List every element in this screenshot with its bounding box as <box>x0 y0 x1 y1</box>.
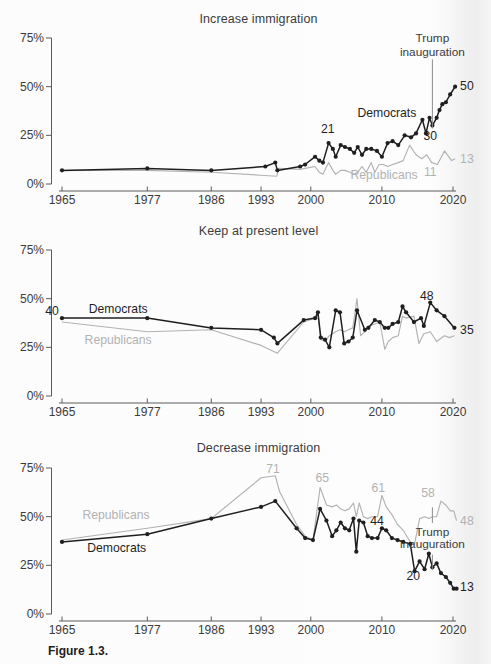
value-label: 13 <box>460 580 474 594</box>
data-point-marker <box>343 145 347 149</box>
y-tick-label: 0% <box>27 389 45 403</box>
data-point-marker <box>385 141 389 145</box>
data-point-marker <box>60 168 64 172</box>
figure-page: Increase immigration 0%25%50%75%19651977… <box>0 0 491 664</box>
data-point-marker <box>259 505 263 509</box>
x-tick-label: 2000 <box>297 623 324 637</box>
value-label: 48 <box>420 289 434 303</box>
data-point-marker <box>209 326 213 330</box>
data-point-marker <box>60 540 64 544</box>
data-point-marker <box>452 326 456 330</box>
data-point-marker <box>347 528 351 532</box>
data-point-marker <box>317 159 321 163</box>
data-point-marker <box>380 155 384 159</box>
x-tick-label: 1986 <box>198 405 225 419</box>
data-point-marker <box>422 567 426 571</box>
y-tick-label: 50% <box>20 80 44 94</box>
data-point-marker <box>354 550 358 554</box>
data-point-marker <box>437 108 441 112</box>
data-point-marker <box>327 345 331 349</box>
data-point-marker <box>145 316 149 320</box>
data-point-marker <box>448 581 452 585</box>
value-label: 58 <box>421 486 435 500</box>
x-tick-label: 1977 <box>134 193 161 207</box>
data-point-marker <box>444 100 448 104</box>
value-label: 13 <box>460 152 474 166</box>
data-point-marker <box>396 320 400 324</box>
data-point-marker <box>145 532 149 536</box>
y-axis: 0%25%50%75% <box>20 243 52 403</box>
data-point-marker <box>321 160 325 164</box>
x-tick-label: 1993 <box>248 405 275 419</box>
x-tick-label: 1986 <box>198 623 225 637</box>
data-point-marker <box>272 335 276 339</box>
value-label: 35 <box>460 323 474 337</box>
chart-title-keep: Keep at present level <box>26 224 491 238</box>
x-tick-label: 2020 <box>440 193 467 207</box>
chart-canvas-increase: 0%25%50%75%1965197719861993200020102020T… <box>0 26 491 216</box>
data-point-marker <box>454 587 458 591</box>
data-point-marker <box>439 571 443 575</box>
y-tick-label: 50% <box>20 510 44 524</box>
value-label: 65 <box>315 471 329 485</box>
value-label: 71 <box>266 462 280 476</box>
data-point-marker <box>363 328 367 332</box>
data-point-marker <box>319 335 323 339</box>
data-point-marker <box>263 164 267 168</box>
data-point-marker <box>339 520 343 524</box>
x-tick-label: 2000 <box>297 405 324 419</box>
y-tick-label: 75% <box>20 243 44 257</box>
data-point-marker <box>334 528 338 532</box>
data-point-marker <box>435 116 439 120</box>
data-point-marker <box>352 151 356 155</box>
x-tick-label: 1965 <box>49 405 76 419</box>
data-point-marker <box>311 538 315 542</box>
data-point-marker <box>386 326 390 330</box>
data-point-marker <box>351 517 355 521</box>
data-point-marker <box>60 316 64 320</box>
data-point-marker <box>334 155 338 159</box>
y-tick-label: 50% <box>20 292 44 306</box>
chart-title-decrease: Decrease immigration <box>26 441 491 455</box>
data-point-marker <box>442 314 446 318</box>
data-point-marker <box>357 518 361 522</box>
data-point-marker <box>273 499 277 503</box>
data-point-marker <box>435 308 439 312</box>
x-tick-label: 2020 <box>440 623 467 637</box>
data-point-marker <box>427 116 431 120</box>
value-label: 11 <box>424 165 437 179</box>
data-point-marker <box>453 85 457 89</box>
value-label: 21 <box>321 122 335 136</box>
data-point-marker <box>400 304 404 308</box>
x-tick-label: 2010 <box>369 623 396 637</box>
data-point-marker <box>145 166 149 170</box>
data-point-marker <box>444 575 448 579</box>
value-label: 40 <box>45 304 59 318</box>
data-point-marker <box>343 526 347 530</box>
data-point-marker <box>273 160 277 164</box>
x-axis: 1965197719861993200020102020 <box>49 617 467 638</box>
data-point-marker <box>334 308 338 312</box>
annotation-text: Trump <box>416 31 450 45</box>
x-tick-label: 2000 <box>297 193 324 207</box>
x-tick-label: 1986 <box>198 193 225 207</box>
data-point-marker <box>412 320 416 324</box>
value-label: 50 <box>460 79 474 93</box>
data-point-marker <box>356 145 360 149</box>
data-point-marker <box>330 534 334 538</box>
x-tick-label: 1993 <box>248 623 275 637</box>
data-point-marker <box>259 328 263 332</box>
x-tick-label: 2020 <box>440 405 467 419</box>
data-point-marker <box>419 316 423 320</box>
value-label: Democrats <box>357 106 416 120</box>
data-point-marker <box>448 92 452 96</box>
data-point-marker <box>378 320 382 324</box>
value-label: Democrats <box>89 302 148 316</box>
y-tick-label: 75% <box>20 461 44 475</box>
data-point-marker <box>209 517 213 521</box>
value-label: Republicans <box>85 333 152 347</box>
x-tick-label: 2010 <box>369 405 396 419</box>
data-point-marker <box>209 168 213 172</box>
data-point-marker <box>396 143 400 147</box>
data-point-marker <box>324 518 328 522</box>
